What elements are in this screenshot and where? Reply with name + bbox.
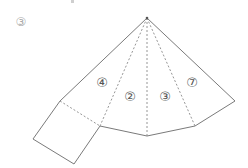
apex-point xyxy=(146,17,149,20)
pyramid-net-diagram: ③ ④ ② ③ ⑦ xyxy=(0,0,248,168)
fold-line-square xyxy=(60,101,100,126)
problem-number: ③ xyxy=(16,15,27,29)
face-label-2: ② xyxy=(124,89,136,104)
face-label-7: ⑦ xyxy=(186,75,198,90)
fold-line-1 xyxy=(100,18,147,126)
square-base-outline xyxy=(33,101,100,164)
net-outline-bottom-edges xyxy=(100,126,195,136)
fold-line-3 xyxy=(147,18,195,126)
net-outline-right-edge xyxy=(147,18,235,126)
face-label-3: ③ xyxy=(159,89,171,104)
scan-mark xyxy=(71,0,74,3)
face-label-4: ④ xyxy=(96,75,108,90)
